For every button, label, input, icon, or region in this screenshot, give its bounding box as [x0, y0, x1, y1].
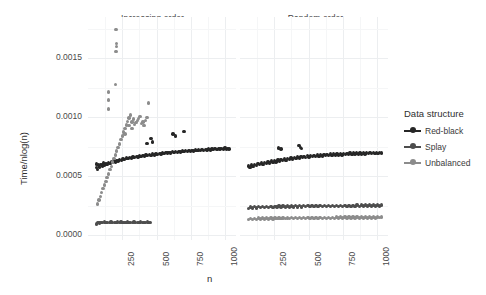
legend-label: Red-black	[425, 126, 463, 136]
gridline-horizontal-minor	[88, 29, 236, 30]
data-point	[112, 157, 115, 160]
y-tick-label: 0.0000	[30, 229, 82, 239]
gridline-horizontal-minor	[240, 88, 388, 89]
gridline-horizontal	[88, 235, 236, 236]
data-point	[99, 195, 102, 198]
data-point	[107, 107, 110, 110]
panel-increasing-order	[88, 17, 236, 240]
data-point	[107, 90, 110, 93]
legend: Data structure Red-blackSplayUnbalanced	[404, 108, 470, 172]
data-point	[105, 176, 108, 179]
gridline-horizontal-minor	[88, 88, 236, 89]
legend-key-icon	[404, 125, 421, 136]
data-point	[380, 215, 383, 218]
panel-random-order	[240, 17, 388, 240]
gridline-horizontal-minor	[88, 206, 236, 207]
gridline-horizontal	[88, 176, 236, 177]
x-tick-label: 500	[313, 252, 323, 266]
legend-item-splay[interactable]: Splay	[404, 140, 470, 153]
x-tick-label: 1000	[229, 247, 239, 266]
x-tick-label: 250	[278, 252, 288, 266]
data-point	[115, 45, 118, 48]
gridline-horizontal-minor	[240, 147, 388, 148]
legend-dot-icon	[410, 127, 416, 133]
data-point	[142, 124, 145, 127]
legend-label: Unbalanced	[425, 158, 470, 168]
data-point	[116, 146, 119, 149]
data-point	[123, 132, 126, 135]
y-tick-label: 0.0015	[30, 52, 82, 62]
gridline-horizontal	[240, 176, 388, 177]
legend-label: Splay	[425, 142, 446, 152]
chart-root: Increasing order Random order Time/nlog(…	[0, 0, 486, 295]
x-tick-label: 750	[195, 252, 205, 266]
gridline-horizontal	[240, 58, 388, 59]
data-point	[144, 119, 147, 122]
data-point	[114, 83, 117, 86]
data-point	[130, 127, 133, 130]
data-point	[108, 168, 111, 171]
x-tick-label: 750	[347, 252, 357, 266]
data-point	[182, 130, 185, 133]
y-tick-label: 0.0005	[30, 170, 82, 180]
legend-key-icon	[404, 157, 421, 168]
data-point	[380, 151, 383, 154]
x-axis-title: n	[207, 273, 212, 284]
data-point	[119, 138, 122, 141]
data-point	[97, 198, 100, 201]
legend-item-unbalanced[interactable]: Unbalanced	[404, 156, 470, 169]
data-point	[145, 142, 148, 145]
data-point	[103, 183, 106, 186]
data-point	[100, 191, 103, 194]
data-point	[279, 147, 282, 150]
data-point	[145, 116, 148, 119]
data-point	[126, 120, 129, 123]
gridline-horizontal	[88, 58, 236, 59]
data-point	[129, 113, 132, 116]
y-axis-title: Time/nlog(n)	[18, 132, 29, 185]
legend-dot-icon	[410, 159, 416, 165]
data-point	[147, 101, 150, 104]
data-point	[114, 153, 117, 156]
data-point	[96, 202, 99, 205]
legend-entries: Red-blackSplayUnbalanced	[404, 124, 470, 169]
gridline-horizontal-minor	[240, 29, 388, 30]
data-point	[149, 221, 152, 224]
data-point	[114, 28, 117, 31]
data-point	[380, 203, 383, 206]
data-point	[127, 116, 130, 119]
data-point	[118, 142, 121, 145]
y-tick-label: 0.0010	[30, 111, 82, 121]
x-tick-label: 1000	[381, 247, 391, 266]
gridline-horizontal	[240, 117, 388, 118]
data-point	[114, 50, 117, 53]
legend-title: Data structure	[404, 108, 470, 119]
x-tick-label: 500	[161, 252, 171, 266]
legend-item-redblack[interactable]: Red-black	[404, 124, 470, 137]
data-point	[227, 147, 230, 150]
data-point	[110, 165, 113, 168]
legend-dot-icon	[410, 143, 416, 149]
data-point	[104, 180, 107, 183]
gridline-horizontal	[88, 117, 236, 118]
data-point	[151, 140, 154, 143]
x-tick-label: 250	[126, 252, 136, 266]
data-point	[107, 172, 110, 175]
data-point	[300, 147, 303, 150]
data-point	[107, 98, 110, 101]
gridline-horizontal	[240, 235, 388, 236]
data-point	[115, 149, 118, 152]
legend-key-icon	[404, 141, 421, 152]
data-point	[174, 134, 177, 137]
